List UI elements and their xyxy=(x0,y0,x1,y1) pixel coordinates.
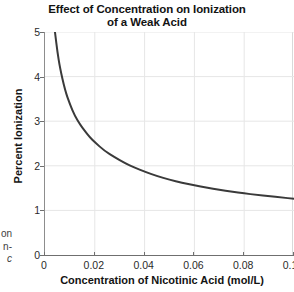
x-tick-mark xyxy=(293,252,294,256)
x-tick-label: 0 xyxy=(22,259,66,271)
y-tick-mark xyxy=(40,166,44,167)
x-tick-mark xyxy=(243,252,244,256)
plot-canvas xyxy=(45,32,294,255)
x-tick-label: 0.08 xyxy=(221,259,265,271)
x-tick-mark xyxy=(144,252,145,256)
caption-fragment-line-2: n- xyxy=(0,241,12,254)
chart-title-line-2: of a Weak Acid xyxy=(0,16,294,29)
gridlines xyxy=(45,32,294,255)
y-tick-mark xyxy=(40,121,44,122)
x-axis-label: Concentration of Nicotinic Acid (mol/L) xyxy=(30,274,294,286)
x-tick-mark xyxy=(44,252,45,256)
data-line xyxy=(55,32,294,199)
caption-fragment-line-1: on xyxy=(0,228,12,241)
data-series-layer xyxy=(55,32,294,199)
y-tick-mark xyxy=(40,32,44,33)
x-tick-label: 0.06 xyxy=(171,259,215,271)
y-tick-label: 5 xyxy=(6,27,40,37)
x-tick-label: 0.04 xyxy=(122,259,166,271)
x-tick-label: 0.02 xyxy=(72,259,116,271)
x-tick-label: 0.10 xyxy=(271,259,294,271)
y-tick-mark xyxy=(40,77,44,78)
x-tick-mark xyxy=(193,252,194,256)
chart-title-line-1: Effect of Concentration on Ionization xyxy=(0,3,294,16)
chart-title: Effect of Concentration on Ionization of… xyxy=(0,3,294,29)
x-tick-mark xyxy=(94,252,95,256)
x-axis-line xyxy=(44,255,294,256)
chart-figure: Effect of Concentration on Ionization of… xyxy=(0,0,294,292)
caption-fragment-line-3: c xyxy=(0,253,12,266)
y-axis-label: Percent Ionization xyxy=(12,66,24,206)
y-tick-mark xyxy=(40,210,44,211)
clipped-caption-fragment: on n- c xyxy=(0,228,12,266)
y-tick-label: 1 xyxy=(6,205,40,215)
plot-area xyxy=(44,32,293,255)
